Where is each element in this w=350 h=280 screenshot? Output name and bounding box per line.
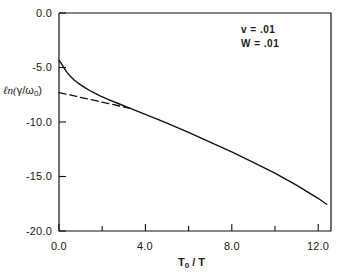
y-axis-title-omega: ω xyxy=(25,84,34,96)
data-series-layer xyxy=(59,60,327,204)
series-solid-curve xyxy=(59,60,327,204)
series-dashed-asymptote xyxy=(59,93,130,109)
xtick-label-3: 12.0 xyxy=(298,240,338,252)
x-axis-title-rest: / T xyxy=(189,256,205,268)
ytick-label-3: -15.0 xyxy=(8,170,52,182)
plot-area xyxy=(0,0,350,280)
x-axis-title-base: T xyxy=(178,256,185,268)
y-axis-title-close-paren: ) xyxy=(38,84,42,96)
figure-panel: 0.0 -5.0 -10.0 -15.0 -20.0 0.0 4.0 8.0 1… xyxy=(0,0,350,280)
x-axis-title: T0 / T xyxy=(178,256,205,270)
axes-frame xyxy=(59,13,331,231)
x-axis-ticks xyxy=(59,224,318,231)
ytick-label-2: -10.0 xyxy=(8,116,52,128)
annotation-v: v = .01 xyxy=(241,24,275,35)
y-axis-ticks xyxy=(59,13,66,231)
xtick-label-1: 4.0 xyxy=(125,240,165,252)
y-axis-title-ln: ℓn( xyxy=(3,84,17,96)
y-axis-title: ℓn(γ/ω0) xyxy=(3,84,42,98)
ytick-label-4: -20.0 xyxy=(8,225,52,237)
ytick-label-0: 0.0 xyxy=(8,7,52,19)
xtick-label-0: 0.0 xyxy=(39,240,79,252)
xtick-label-2: 8.0 xyxy=(212,240,252,252)
annotation-W: W = .01 xyxy=(241,38,279,49)
ytick-label-1: -5.0 xyxy=(8,61,52,73)
